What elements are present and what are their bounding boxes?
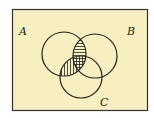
- label-a: A: [18, 25, 27, 38]
- venn-diagram: A B C: [0, 0, 154, 118]
- label-b: B: [126, 25, 135, 38]
- label-c: C: [100, 96, 109, 109]
